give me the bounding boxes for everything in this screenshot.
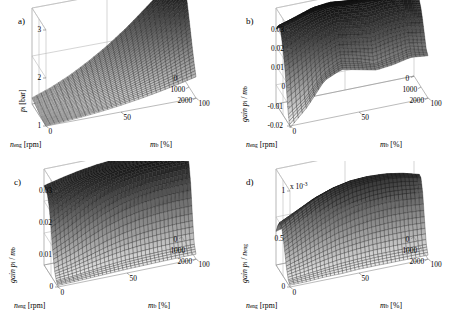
y-tick-label: 100 (199, 99, 210, 108)
y-tick-label: 100 (431, 99, 442, 108)
x-tick-label: 1000 (170, 85, 185, 94)
y-axis-title: mb [%] (380, 301, 402, 310)
z-tick-label: 0 (282, 82, 286, 91)
x-tick-label: 2000 (409, 96, 424, 105)
z-tick-label: 0.5 (275, 234, 284, 243)
surface-mesh (44, 161, 196, 285)
y-axis-title: mb [%] (150, 140, 172, 149)
x-tick-label: 2000 (177, 257, 192, 266)
panel-b: b)-0.02-0.0100.010.020.03200010000050100… (232, 0, 463, 161)
y-axis-title: mb [%] (148, 301, 170, 310)
x-axis-title: neng [rpm] (10, 140, 41, 149)
z-axis-title: gain pi / neng (240, 244, 249, 283)
z-tick-label: -0.01 (268, 102, 283, 111)
panel-b-canvas (232, 0, 463, 161)
z-axis-title: gain pi / mb (240, 86, 249, 122)
x-tick-label: 1000 (402, 246, 417, 255)
y-tick-label: 100 (431, 260, 442, 269)
panel-tag: d) (246, 177, 254, 187)
z-tick-label: 3 (38, 25, 42, 34)
x-axis-title: neng [rpm] (14, 301, 45, 310)
z-tick-label: -0.02 (268, 121, 283, 130)
panel-tag: b) (246, 16, 254, 26)
z-tick-label: 1 (282, 186, 286, 195)
z-tick-label: 0.02 (271, 44, 284, 53)
y-tick-label: 50 (362, 274, 369, 283)
x-tick-label: 2000 (177, 96, 192, 105)
z-tick-label: 0.03 (39, 186, 52, 195)
x-tick-label: 2000 (409, 257, 424, 266)
x-tick-label: 0 (174, 235, 178, 244)
y-tick-label: 0 (293, 127, 297, 136)
panel-c: c)00.010.020.03200010000050100neng [rpm]… (0, 161, 231, 322)
panel-a: a)123200010000050100neng [rpm]mb [%]pi [… (0, 0, 231, 161)
y-tick-label: 50 (130, 274, 137, 283)
z-tick-label: 0.01 (271, 63, 284, 72)
x-tick-label: 0 (406, 235, 410, 244)
surface-mesh (32, 0, 196, 126)
y-tick-label: 0 (61, 288, 65, 297)
z-tick-label: 0.03 (271, 25, 284, 34)
y-tick-label: 50 (362, 113, 369, 122)
y-tick-label: 0 (49, 127, 53, 136)
x-axis-title: neng [rpm] (246, 301, 277, 310)
x-tick-label: 1000 (402, 85, 417, 94)
z-tick-label: 0 (282, 282, 286, 291)
z-tick-label: 2 (38, 73, 42, 82)
y-tick-label: 0 (293, 288, 297, 297)
z-tick-label: 0 (50, 282, 54, 291)
y-axis-title: mb [%] (380, 140, 402, 149)
figure-container: a)123200010000050100neng [rpm]mb [%]pi [… (0, 0, 463, 323)
x-axis-title: neng [rpm] (246, 140, 277, 149)
z-tick-label: 0.01 (39, 250, 52, 259)
panel-c-canvas (0, 161, 231, 322)
x-tick-label: 0 (174, 74, 178, 83)
z-axis-title: pi [bar] (18, 89, 27, 112)
x-tick-label: 1000 (170, 246, 185, 255)
z-axis-exponent-label: x 10-3 (290, 181, 307, 191)
z-tick-label: 1 (38, 121, 42, 130)
panel-d: d)00.51200010000050100neng [rpm]mb [%]ga… (232, 161, 463, 322)
y-tick-label: 50 (124, 113, 131, 122)
surface-mesh (276, 0, 428, 128)
y-tick-label: 100 (199, 260, 210, 269)
panel-tag: c) (14, 177, 21, 187)
z-axis-title: gain pi / mb (8, 247, 17, 283)
panel-tag: a) (18, 16, 25, 26)
x-tick-label: 0 (406, 74, 410, 83)
panel-a-canvas (0, 0, 231, 161)
panel-d-canvas (232, 161, 463, 322)
z-tick-label: 0.02 (39, 218, 52, 227)
